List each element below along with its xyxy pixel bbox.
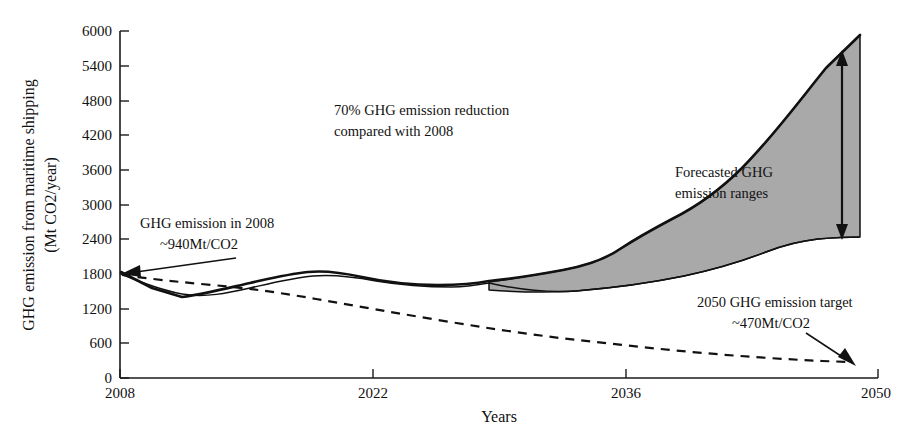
target-2050-line1: 2050 GHG emission target (697, 294, 853, 310)
emission-2008-leader-line (136, 258, 236, 272)
x-tick-label-2050: 2050 (861, 385, 891, 401)
y-tick-label-600: 600 (90, 335, 113, 351)
y-tick-label-2400: 2400 (82, 231, 112, 247)
chart-canvas: 0 600 1200 1800 2400 3000 3600 4200 4800… (0, 0, 903, 434)
reduction-note-line1: 70% GHG emission reduction (334, 102, 510, 118)
emission-2008-line2: ~940Mt/CO2 (160, 236, 238, 252)
reduction-note-line2: compared with 2008 (334, 123, 453, 139)
forecast-range-line1: Forecasted GHG (675, 164, 773, 180)
y-tick-label-1200: 1200 (82, 301, 112, 317)
x-tick-marks (120, 369, 878, 378)
x-axis-title: Years (481, 408, 517, 425)
annotation-target-2050-note: 2050 GHG emission target ~470Mt/CO2 (697, 294, 856, 366)
y-tick-label-1800: 1800 (82, 266, 112, 282)
x-tick-label-2008: 2008 (105, 385, 135, 401)
target-2050-leader-line (806, 333, 844, 358)
ghg-emission-chart: 0 600 1200 1800 2400 3000 3600 4200 4800… (0, 0, 903, 434)
y-tick-label-4800: 4800 (82, 93, 112, 109)
y-tick-label-3600: 3600 (82, 162, 112, 178)
y-tick-label-3000: 3000 (82, 197, 112, 213)
target-2050-arrowhead-icon (838, 348, 856, 366)
target-2050-line2: ~470Mt/CO2 (732, 315, 810, 331)
emission-2008-line1: GHG emission in 2008 (140, 215, 274, 231)
x-tick-label-2036: 2036 (611, 385, 642, 401)
y-axis-title-line2: (Mt CO2/year) (42, 157, 60, 253)
y-tick-marks (120, 31, 129, 378)
y-axis-title-line1: GHG emission from maritime shipping (20, 79, 38, 331)
x-tick-label-2022: 2022 (358, 385, 388, 401)
annotation-reduction-note: 70% GHG emission reduction compared with… (334, 102, 510, 139)
y-tick-label-4200: 4200 (82, 127, 112, 143)
y-tick-label-0: 0 (105, 370, 113, 386)
annotation-emission-2008-note: GHG emission in 2008 ~940Mt/CO2 (121, 215, 274, 277)
y-tick-label-5400: 5400 (82, 58, 112, 74)
forecast-range-line2: emission ranges (675, 185, 768, 201)
y-tick-label-6000: 6000 (82, 23, 112, 39)
